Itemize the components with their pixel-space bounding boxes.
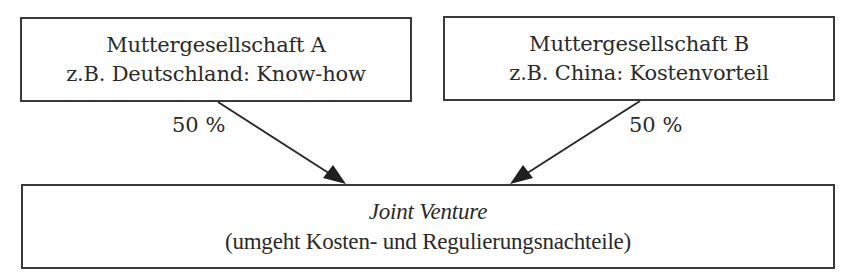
share-label-a: 50 % bbox=[172, 112, 225, 138]
joint-venture-title: Joint Venture bbox=[369, 197, 488, 227]
joint-venture-box: Joint Venture (umgeht Kosten- und Reguli… bbox=[21, 184, 835, 269]
arrowhead-icon bbox=[323, 165, 346, 184]
parent-b-title: Muttergesellschaft B bbox=[529, 30, 749, 59]
parent-company-a-box: Muttergesellschaft A z.B. Deutschland: K… bbox=[20, 17, 412, 102]
arrowhead-icon bbox=[510, 165, 533, 184]
arrow-a-to-jv bbox=[218, 102, 346, 184]
share-label-b: 50 % bbox=[629, 112, 682, 138]
parent-a-title: Muttergesellschaft A bbox=[106, 31, 326, 60]
parent-company-b-box: Muttergesellschaft B z.B. China: Kostenv… bbox=[443, 16, 835, 101]
parent-b-subtitle: z.B. China: Kostenvorteil bbox=[509, 59, 768, 88]
arrow-b-to-jv bbox=[510, 101, 640, 184]
joint-venture-subtitle: (umgeht Kosten- und Regulierungsnachteil… bbox=[225, 227, 631, 257]
parent-a-subtitle: z.B. Deutschland: Know-how bbox=[66, 60, 366, 89]
